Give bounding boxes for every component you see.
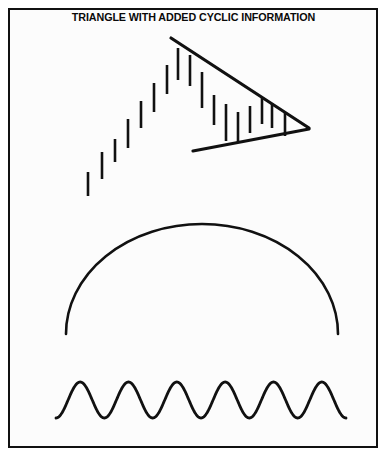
dome-arc [66,224,338,334]
figure-drawing-canvas [0,0,387,457]
panel-cyclic-wave [56,382,346,418]
panel-price-bars-triangle [88,38,309,196]
sine-wave [56,382,346,418]
panel-arc-curve [66,224,338,334]
upper-trendline [171,38,309,128]
figure-root: TRIANGLE WITH ADDED CYCLIC INFORMATION [0,0,387,457]
